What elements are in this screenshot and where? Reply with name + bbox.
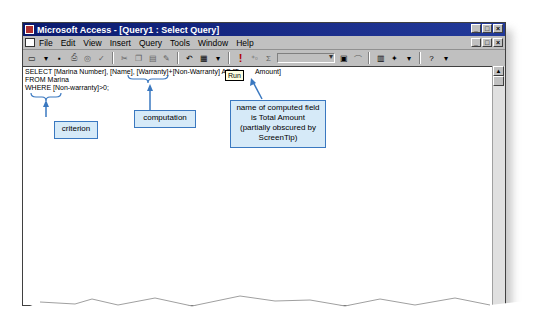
doc-minimize-button[interactable]: _ — [471, 38, 481, 47]
title-bar: Microsoft Access - [Query1 : Select Quer… — [23, 23, 505, 36]
format-painter-icon[interactable]: ✎ — [161, 53, 172, 64]
save-icon[interactable]: ▪ — [54, 53, 65, 64]
toolbar-options-icon[interactable]: ▾ — [440, 53, 451, 64]
sql-text[interactable]: SELECT [Marina Number], [Name], [Warrant… — [23, 67, 493, 93]
toolbar-separator — [177, 52, 179, 64]
menu-file[interactable]: File — [39, 38, 53, 48]
menu-tools[interactable]: Tools — [170, 38, 190, 48]
copy-icon[interactable]: ❐ — [133, 53, 144, 64]
access-app-icon — [25, 25, 34, 34]
sql-line-2: FROM Marina — [25, 76, 69, 83]
menu-help[interactable]: Help — [236, 38, 253, 48]
undo-icon[interactable]: ↶ — [184, 53, 195, 64]
doc-close-button[interactable]: × — [493, 38, 503, 47]
close-button[interactable]: × — [493, 24, 503, 33]
menu-bar: File Edit View Insert Query Tools Window… — [23, 36, 505, 50]
spelling-icon[interactable]: ✓ — [96, 53, 107, 64]
sql-line-1-end: Amount] — [255, 68, 281, 75]
menu-insert[interactable]: Insert — [110, 38, 131, 48]
view-icon[interactable]: ▭ — [26, 53, 37, 64]
run-icon[interactable]: ! — [235, 53, 246, 64]
totals-icon[interactable]: Σ — [263, 53, 274, 64]
toolbar-separator — [368, 52, 370, 64]
restore-button[interactable]: □ — [482, 24, 492, 33]
view-dropdown-icon[interactable]: ▾ — [40, 53, 51, 64]
document-controls: _ □ × — [471, 38, 503, 47]
new-object-icon[interactable]: ✦ — [389, 53, 400, 64]
doc-restore-button[interactable]: □ — [482, 38, 492, 47]
database-window-icon[interactable]: ▥ — [375, 53, 386, 64]
vertical-scrollbar[interactable]: ▲ — [492, 66, 505, 305]
callout-criterion: criterion — [54, 121, 98, 139]
scroll-up-button[interactable]: ▲ — [493, 66, 504, 76]
query-type-icon[interactable]: ▦ — [198, 53, 209, 64]
callout-computation: computation — [134, 110, 196, 128]
query-toolbar: ▭ ▾ ▪ ⎙ ◎ ✓ ✂ ❐ ▤ ✎ ↶ ▦ ▾ ! ⁺▫ Σ ▣ ⌒ ▥ ✦… — [23, 50, 505, 67]
help-icon[interactable]: ? — [426, 53, 437, 64]
sql-line-3: WHERE [Non-warranty]>0; — [25, 84, 109, 91]
new-object-dropdown-icon[interactable]: ▾ — [403, 53, 414, 64]
cut-icon[interactable]: ✂ — [119, 53, 130, 64]
minimize-button[interactable]: _ — [471, 24, 481, 33]
toolbar-separator — [419, 52, 421, 64]
menu-view[interactable]: View — [83, 38, 101, 48]
toolbar-separator — [228, 52, 230, 64]
build-icon[interactable]: ⌒ — [352, 53, 363, 64]
access-window: Microsoft Access - [Query1 : Select Quer… — [22, 22, 506, 306]
print-icon[interactable]: ⎙ — [68, 53, 79, 64]
sql-line-1: SELECT [Marina Number], [Name], [Warrant… — [25, 68, 239, 75]
menu-query[interactable]: Query — [139, 38, 162, 48]
run-screentip: Run — [225, 70, 244, 81]
print-preview-icon[interactable]: ◎ — [82, 53, 93, 64]
query-type-dropdown-icon[interactable]: ▾ — [212, 53, 223, 64]
menu-window[interactable]: Window — [198, 38, 228, 48]
callout-computed-field: name of computed field is Total Amount (… — [230, 100, 326, 148]
paste-icon[interactable]: ▤ — [147, 53, 158, 64]
window-title: Microsoft Access - [Query1 : Select Quer… — [37, 25, 219, 35]
document-icon[interactable] — [25, 38, 35, 47]
menu-edit[interactable]: Edit — [61, 38, 76, 48]
scroll-thumb[interactable] — [493, 76, 504, 86]
properties-icon[interactable]: ▣ — [338, 53, 349, 64]
show-table-icon[interactable]: ⁺▫ — [249, 53, 260, 64]
toolbar-separator — [112, 52, 114, 64]
top-values-combo[interactable] — [277, 53, 335, 63]
window-controls: _ □ × — [471, 24, 503, 33]
